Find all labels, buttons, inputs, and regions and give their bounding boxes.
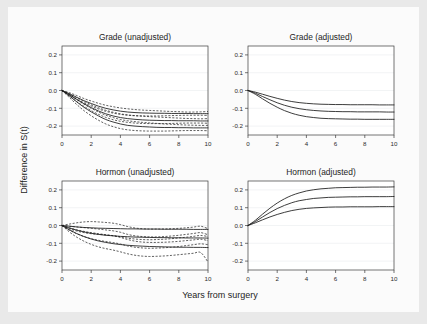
- x-tick-label: 6: [148, 140, 152, 147]
- y-tick-label: 0.1: [234, 69, 243, 76]
- x-tick-label: 10: [205, 275, 212, 282]
- panel-title-top-left: Grade (unadjusted): [99, 32, 171, 42]
- x-tick-label: 0: [246, 275, 250, 282]
- x-tick-label: 4: [305, 275, 309, 282]
- y-tick-label: -0.2: [46, 122, 57, 129]
- x-tick-label: 2: [89, 140, 93, 147]
- y-tick-label: 0.2: [48, 186, 57, 193]
- plot-svg: 0.20.10.0-0.1-0.20246810Grade (unadjuste…: [0, 0, 427, 324]
- y-tick-label: 0.2: [234, 51, 243, 58]
- y-tick-label: -0.2: [232, 122, 243, 129]
- y-tick-label: 0.0: [48, 222, 57, 229]
- panel-title-bottom-left: Hormon (unadjusted): [96, 167, 175, 177]
- x-tick-label: 6: [334, 275, 338, 282]
- x-tick-label: 0: [60, 275, 64, 282]
- x-tick-label: 8: [177, 140, 181, 147]
- x-tick-label: 2: [275, 140, 279, 147]
- x-tick-label: 2: [89, 275, 93, 282]
- y-tick-label: -0.1: [46, 105, 57, 112]
- panel-group: 0.20.10.0-0.1-0.20246810Grade (unadjuste…: [46, 32, 398, 282]
- y-tick-label: 0.2: [234, 186, 243, 193]
- x-tick-label: 4: [119, 140, 123, 147]
- y-tick-label: 0.1: [48, 69, 57, 76]
- y-tick-label: 0.0: [234, 87, 243, 94]
- x-tick-label: 8: [177, 275, 181, 282]
- x-tick-label: 10: [391, 275, 398, 282]
- x-tick-label: 10: [391, 140, 398, 147]
- y-tick-label: -0.1: [232, 105, 243, 112]
- y-tick-label: -0.2: [46, 257, 57, 264]
- y-tick-label: 0.0: [48, 87, 57, 94]
- panel-title-top-right: Grade (adjusted): [290, 32, 353, 42]
- x-tick-label: 4: [119, 275, 123, 282]
- x-axis-title: Years from surgery: [182, 290, 258, 300]
- panel-bottom-left: 0.20.10.0-0.1-0.20246810Hormon (unadjust…: [46, 167, 212, 282]
- y-tick-label: 0.0: [234, 222, 243, 229]
- y-tick-label: 0.2: [48, 51, 57, 58]
- panel-top-right: 0.20.10.0-0.1-0.20246810Grade (adjusted): [232, 32, 398, 147]
- panel-top-left: 0.20.10.0-0.1-0.20246810Grade (unadjuste…: [46, 32, 212, 147]
- x-tick-label: 0: [246, 140, 250, 147]
- y-tick-label: 0.1: [48, 204, 57, 211]
- x-tick-label: 0: [60, 140, 64, 147]
- panel-title-bottom-right: Hormon (adjusted): [286, 167, 356, 177]
- y-tick-label: 0.1: [234, 204, 243, 211]
- x-tick-label: 10: [205, 140, 212, 147]
- y-axis-title: Difference in S(t): [19, 126, 29, 193]
- x-tick-label: 8: [363, 140, 367, 147]
- x-tick-label: 4: [305, 140, 309, 147]
- x-tick-label: 6: [148, 275, 152, 282]
- x-tick-label: 2: [275, 275, 279, 282]
- x-tick-label: 8: [363, 275, 367, 282]
- figure-container: 0.20.10.0-0.1-0.20246810Grade (unadjuste…: [0, 0, 427, 324]
- panel-bottom-right: 0.20.10.0-0.1-0.20246810Hormon (adjusted…: [232, 167, 398, 282]
- y-tick-label: -0.1: [46, 240, 57, 247]
- y-tick-label: -0.1: [232, 240, 243, 247]
- y-tick-label: -0.2: [232, 257, 243, 264]
- x-tick-label: 6: [334, 140, 338, 147]
